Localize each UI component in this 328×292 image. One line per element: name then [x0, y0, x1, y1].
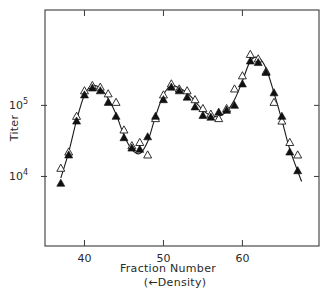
open-triangle-marker [144, 151, 152, 158]
y-tick-label: 105 [9, 97, 28, 112]
filled-triangle-marker [286, 148, 294, 155]
filled-triangle-marker [215, 108, 223, 115]
x-axis-subtitle: (←Density) [144, 276, 207, 289]
open-triangle-marker [136, 138, 144, 145]
plot-frame [45, 10, 319, 246]
filled-triangle-series [57, 57, 302, 186]
filled-triangle-marker [270, 89, 278, 96]
open-triangle-marker [294, 151, 302, 158]
filled-triangle-marker [152, 112, 160, 119]
filled-triangle-marker [104, 98, 112, 105]
filled-triangle-marker [294, 167, 302, 174]
filled-triangle-marker [112, 112, 120, 119]
titer-chart: 405060 104105 Fraction Number (←Density)… [0, 0, 328, 292]
x-axis-title: Fraction Number [120, 262, 216, 275]
filled-triangle-marker [238, 80, 246, 87]
x-tick-label: 40 [77, 252, 91, 265]
plot-border [45, 10, 319, 246]
open-triangle-marker [231, 85, 239, 92]
filled-triangle-marker [57, 179, 65, 186]
filled-triangle-marker [278, 112, 286, 119]
x-tick-label: 60 [235, 252, 249, 265]
y-axis-title: Titer [8, 115, 21, 143]
open-triangle-series [57, 50, 302, 171]
y-axis-ticks: 104105 [9, 97, 319, 183]
y-tick-label: 104 [9, 168, 28, 183]
open-triangle-marker [112, 98, 120, 105]
open-triangle-marker [191, 96, 199, 103]
x-axis-ticks: 405060 [77, 10, 249, 265]
filled-triangle-marker [136, 145, 144, 152]
filled-triangle-marker [120, 134, 128, 141]
